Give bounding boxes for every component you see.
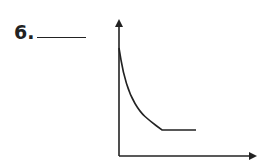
graph bbox=[0, 0, 271, 166]
data-curve bbox=[119, 48, 196, 130]
